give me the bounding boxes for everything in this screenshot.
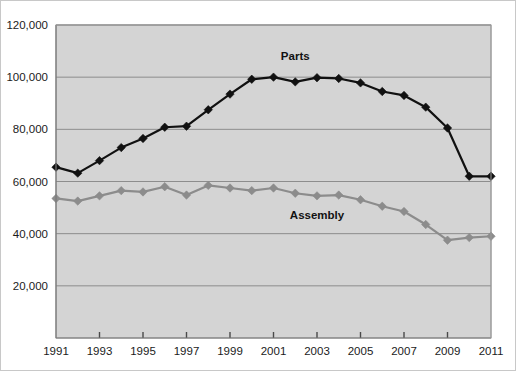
x-tick-label: 2001 (261, 345, 287, 357)
chart-figure: 20,00040,00060,00080,000100,000120,000 1… (0, 0, 516, 371)
x-tick-label: 2011 (479, 345, 504, 357)
x-tick-label: 1997 (174, 345, 200, 357)
x-tick-label: 1995 (130, 345, 156, 357)
series-label-assembly: Assembly (290, 209, 345, 221)
y-tick-label: 100,000 (6, 71, 48, 83)
y-tick-label: 20,000 (13, 280, 48, 292)
x-tick-labels: 1991199319951997199920012003200520072009… (43, 345, 503, 357)
y-tick-label: 40,000 (13, 228, 48, 240)
x-tick-label: 2003 (304, 345, 330, 357)
line-chart: 20,00040,00060,00080,000100,000120,000 1… (1, 1, 516, 371)
x-tick-label: 1993 (87, 345, 113, 357)
y-tick-label: 80,000 (13, 123, 48, 135)
x-tick-label: 2009 (435, 345, 461, 357)
x-tick-label: 1999 (217, 345, 243, 357)
series-label-parts: Parts (281, 50, 310, 62)
y-tick-labels: 20,00040,00060,00080,000100,000120,000 (6, 19, 48, 292)
x-tick-label: 1991 (43, 345, 69, 357)
y-tick-label: 60,000 (13, 176, 48, 188)
x-tick-label: 2007 (391, 345, 417, 357)
y-tick-label: 120,000 (6, 19, 48, 31)
x-tick-label: 2005 (348, 345, 374, 357)
